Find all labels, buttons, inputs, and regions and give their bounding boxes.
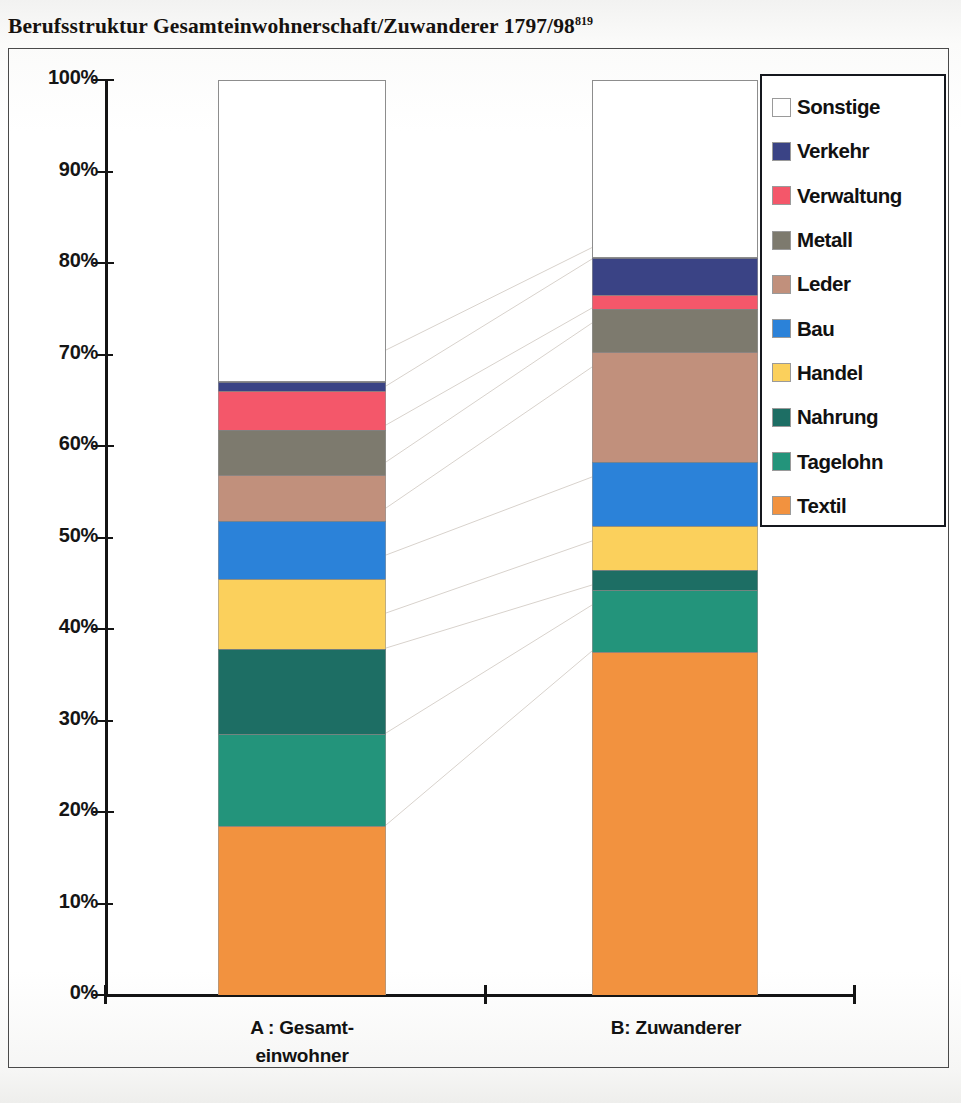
y-axis-label-20: 20%	[8, 798, 98, 821]
legend-swatch-sonstige-icon	[772, 98, 791, 117]
bar-segment-nahrung[interactable]	[218, 649, 386, 734]
legend-swatch-textil-icon	[772, 496, 791, 515]
legend-label: Nahrung	[797, 405, 878, 429]
bar-segment-handel[interactable]	[592, 526, 758, 570]
legend-item-bau[interactable]: Bau	[772, 306, 944, 350]
bar-segment-leder[interactable]	[218, 475, 386, 521]
legend-label: Handel	[797, 361, 863, 385]
y-axis-label-30: 30%	[8, 707, 98, 730]
bar-segment-bau[interactable]	[592, 462, 758, 526]
y-axis-tick-10	[97, 903, 113, 905]
x-axis-label-zuwanderer: B: Zuwanderer	[526, 1014, 826, 1042]
legend-label: Bau	[797, 317, 834, 341]
bar-segment-tagelohn[interactable]	[592, 590, 758, 652]
bar-segment-metall[interactable]	[218, 430, 386, 476]
legend-item-verwaltung[interactable]: Verwaltung	[772, 174, 944, 218]
x-axis-label-gesamteinwohner: A : Gesamt-einwohner	[152, 1014, 452, 1070]
y-axis-label-0: 0%	[8, 981, 98, 1004]
y-axis-label-10: 10%	[8, 890, 98, 913]
legend-label: Verkehr	[797, 139, 869, 163]
legend-swatch-metall-icon	[772, 231, 791, 250]
bar-segment-textil[interactable]	[592, 652, 758, 995]
legend-item-handel[interactable]: Handel	[772, 351, 944, 395]
legend-label: Verwaltung	[797, 184, 902, 208]
bar-segment-tagelohn[interactable]	[218, 734, 386, 826]
bar-segment-nahrung[interactable]	[592, 570, 758, 590]
legend-label: Sonstige	[797, 95, 880, 119]
bar-segment-verkehr[interactable]	[218, 382, 386, 391]
legend-item-textil[interactable]: Textil	[772, 484, 944, 528]
legend-item-metall[interactable]: Metall	[772, 218, 944, 262]
legend-item-verkehr[interactable]: Verkehr	[772, 129, 944, 173]
legend-label: Leder	[797, 272, 851, 296]
legend-swatch-bau-icon	[772, 319, 791, 338]
legend-item-leder[interactable]: Leder	[772, 262, 944, 306]
x-label-line-2: einwohner	[152, 1042, 452, 1070]
x-label-line-1: A : Gesamt-	[152, 1014, 452, 1042]
chart-legend: SonstigeVerkehrVerwaltungMetallLederBauH…	[760, 74, 946, 527]
x-axis-tick-right	[853, 985, 856, 1004]
legend-swatch-leder-icon	[772, 275, 791, 294]
bar-segment-verwaltung[interactable]	[218, 391, 386, 429]
bar-segment-sonstige[interactable]	[592, 80, 758, 258]
legend-swatch-verwaltung-icon	[772, 186, 791, 205]
legend-label: Textil	[797, 494, 846, 518]
y-axis-label-90: 90%	[8, 158, 98, 181]
legend-item-nahrung[interactable]: Nahrung	[772, 395, 944, 439]
legend-swatch-nahrung-icon	[772, 408, 791, 427]
bar-segment-handel[interactable]	[218, 579, 386, 649]
legend-swatch-handel-icon	[772, 363, 791, 382]
y-axis-label-60: 60%	[8, 432, 98, 455]
x-axis-tick-middle	[484, 985, 487, 1004]
y-axis-tick-30	[97, 720, 113, 722]
legend-item-tagelohn[interactable]: Tagelohn	[772, 439, 944, 483]
bar-segment-verwaltung[interactable]	[592, 295, 758, 309]
y-axis-tick-50	[97, 537, 113, 539]
y-axis-tick-70	[97, 354, 113, 356]
x-label-line-1: B: Zuwanderer	[526, 1014, 826, 1042]
bar-segment-sonstige[interactable]	[218, 80, 386, 382]
bar-segment-leder[interactable]	[592, 352, 758, 462]
y-axis-label-50: 50%	[8, 524, 98, 547]
stacked-bar-zuwanderer[interactable]	[592, 80, 758, 995]
y-axis-tick-90	[97, 171, 113, 173]
legend-swatch-verkehr-icon	[772, 142, 791, 161]
legend-item-sonstige[interactable]: Sonstige	[772, 85, 944, 129]
bar-segment-metall[interactable]	[592, 309, 758, 352]
x-axis-tick-left	[104, 985, 107, 1004]
y-axis-label-100: 100%	[8, 66, 98, 89]
bar-segment-bau[interactable]	[218, 521, 386, 579]
legend-label: Tagelohn	[797, 450, 883, 474]
legend-label: Metall	[797, 228, 852, 252]
y-axis-label-80: 80%	[8, 249, 98, 272]
legend-swatch-tagelohn-icon	[772, 452, 791, 471]
bar-segment-textil[interactable]	[218, 826, 386, 995]
stacked-bar-gesamteinwohner[interactable]	[218, 80, 386, 995]
y-axis-label-70: 70%	[8, 341, 98, 364]
y-axis-label-40: 40%	[8, 615, 98, 638]
bar-segment-verkehr[interactable]	[592, 258, 758, 295]
